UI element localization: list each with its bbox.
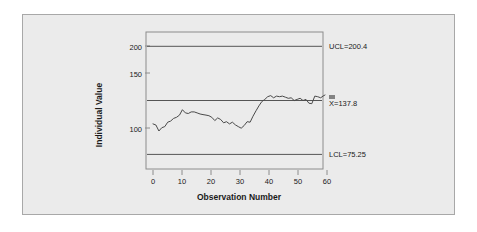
x-tick-label: 10 xyxy=(178,177,186,186)
x-tick-label: 20 xyxy=(207,177,215,186)
x-tick-label: 30 xyxy=(236,177,244,186)
control-chart: Individual Value 200 150 100 0 10 20 30 … xyxy=(23,15,456,216)
x-tick-label: 60 xyxy=(323,177,331,186)
x-axis-title: Observation Number xyxy=(197,192,282,202)
y-tick-label: 150 xyxy=(129,70,142,79)
x-tick-label: 40 xyxy=(265,177,273,186)
x-tick-label: 50 xyxy=(294,177,302,186)
x-tick-label: 0 xyxy=(151,177,155,186)
y-axis-title: Individual Value xyxy=(94,83,104,148)
chart-figure-card: Individual Value 200 150 100 0 10 20 30 … xyxy=(22,14,455,215)
y-tick-label: 200 xyxy=(129,43,142,52)
lcl-label: LCL=75.25 xyxy=(329,150,366,159)
center-line-label: X=137.8 xyxy=(329,99,357,108)
y-tick-label: 100 xyxy=(129,125,142,134)
ucl-label: UCL=200.4 xyxy=(329,42,367,51)
